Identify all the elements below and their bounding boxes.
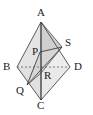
vertex-label-a: A (37, 7, 45, 18)
vertex-label-c: C (37, 100, 44, 111)
geometry-canvas (0, 0, 93, 115)
vertex-label-s: S (65, 37, 71, 48)
vertex-label-d: D (74, 61, 82, 72)
geometry-figure: A B C D P Q R S (0, 0, 93, 115)
vertex-label-r: R (44, 70, 51, 81)
vertex-label-p: P (32, 46, 38, 57)
vertex-label-q: Q (16, 85, 24, 96)
vertex-label-b: B (3, 61, 10, 72)
